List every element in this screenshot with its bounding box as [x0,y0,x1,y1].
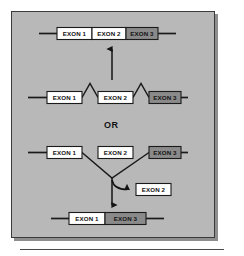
row-spliced-product-top [39,28,176,40]
exon-box-1 [57,28,92,40]
exon-box-2 [98,92,133,104]
figure-bottom-rule [20,249,224,250]
excised-exon-group [136,184,171,196]
arrow-shaft-to-excised-exon [112,180,127,190]
splicing-figure: EXON 1 EXON 2 EXON 3 EXON 1 EXON 2 EXON … [0,0,244,256]
arrow-group-excision [112,178,127,205]
intron-loop-2 [133,84,149,98]
diagram-vector-layer [0,0,244,256]
row-spliced-product-bottom [51,213,164,225]
row-pre-mrna-lower [28,147,188,179]
exon-box-3 [126,28,158,40]
exon-box-3 [105,213,146,225]
intron-loop-1 [82,84,98,98]
row-pre-mrna-upper [28,84,188,104]
exon-box-1 [47,92,82,104]
exon-box-1 [69,213,105,225]
alternative-or-label: OR [104,120,118,130]
exon-box-3 [149,147,181,159]
excised-exon-box [136,184,171,196]
exon-box-3 [149,92,181,104]
exon-box-2 [92,28,126,40]
exon-box-2 [98,147,133,159]
exon-box-1 [47,147,82,159]
